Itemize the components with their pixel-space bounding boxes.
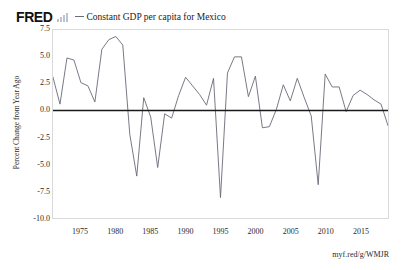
- y-tick-label: 5.0: [16, 52, 50, 60]
- x-tick-label: 2000: [238, 228, 274, 236]
- x-tick-label: 1975: [62, 228, 98, 236]
- y-tick-label: 0.0: [16, 106, 50, 114]
- fred-chart-figure: FRED Constant GDP per capita for Mexico …: [0, 0, 401, 270]
- series-plot: [53, 30, 388, 218]
- x-tick-label: 2015: [343, 228, 379, 236]
- legend-series-label: Constant GDP per capita for Mexico: [87, 12, 226, 22]
- legend-color-swatch: [75, 16, 84, 17]
- x-tick-label: 2005: [273, 228, 309, 236]
- x-tick-label: 1980: [97, 228, 133, 236]
- x-tick-label: 1995: [203, 228, 239, 236]
- series-line-constant-gdp-per-capita-mexico: [53, 36, 388, 197]
- chart-legend: Constant GDP per capita for Mexico: [75, 12, 226, 22]
- plot-area: [52, 29, 389, 219]
- y-tick-label: -5.0: [16, 161, 50, 169]
- x-tick-label: 1985: [132, 228, 168, 236]
- y-tick-label: 2.5: [16, 79, 50, 87]
- y-tick-label: -2.5: [16, 134, 50, 142]
- y-tick-label: -7.5: [16, 188, 50, 196]
- y-tick-label: 7.5: [16, 25, 50, 33]
- x-axis-tick-labels: 197519801985199019952000200520102015: [0, 228, 401, 240]
- y-axis-title: Percent Change from Year Ago: [12, 48, 21, 198]
- bar-chart-icon: [57, 8, 68, 26]
- x-tick-label: 1990: [167, 228, 203, 236]
- source-url-label: myf.red/g/WMJR: [332, 250, 389, 259]
- x-tick-label: 2010: [308, 228, 344, 236]
- y-tick-label: -10.0: [16, 215, 50, 223]
